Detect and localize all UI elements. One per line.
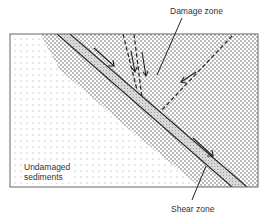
damage-zone-label: Damage zone [170,6,223,16]
undamaged-sediments-label: Undamaged sediments [22,161,72,183]
fault-zone-diagram [0,0,274,220]
undamaged-label-line2: sediments [24,172,70,182]
shear-zone-label: Shear zone [171,204,214,214]
undamaged-label-line1: Undamaged [24,162,70,172]
